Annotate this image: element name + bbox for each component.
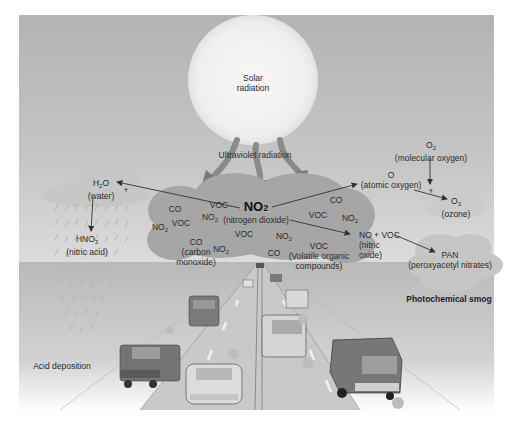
- no2-label: NO2: [213, 244, 229, 257]
- co-label: CO: [169, 204, 182, 214]
- molecular-oxygen-label: O2(molecular oxygen): [395, 140, 467, 163]
- uv-radiation-label: Ultraviolet radiation: [219, 150, 292, 160]
- pan-label: PAN(peroxyacetyl nitrates): [408, 250, 492, 270]
- smog-diagram: Solarradiation Ultraviolet radiation NO2…: [0, 0, 513, 429]
- nitric-oxide-voc-label: NO + VOC(nitricoxide): [359, 230, 400, 260]
- car-sedan-icon: [186, 364, 242, 404]
- photochemical-smog-label: Photochemical smog: [406, 294, 492, 304]
- voc-label: VOC(Volatile organiccompounds): [289, 241, 349, 271]
- voc-label: VOC: [172, 218, 190, 228]
- voc-label: VOC: [235, 229, 253, 239]
- solar-radiation-label: Solarradiation: [237, 73, 270, 93]
- water-label: H2O(water): [88, 178, 114, 201]
- ozone-label: O3(ozone): [442, 196, 471, 219]
- plus-sign: +: [429, 186, 434, 196]
- no2-label: NO2: [202, 212, 218, 225]
- co-label: CO: [268, 248, 281, 258]
- no2-center-label: NO2 (nitrogen dioxide): [223, 200, 289, 225]
- plus-sign: +: [124, 185, 129, 195]
- atomic-oxygen-label: O(atomic oxygen): [361, 170, 421, 190]
- voc-label: VOC: [309, 210, 327, 220]
- voc-label: VOC: [210, 200, 228, 210]
- carbon-monoxide-label: CO(carbonmonoxide): [176, 237, 216, 267]
- no2-label: NO2: [342, 213, 358, 226]
- no2-label: NO2: [152, 222, 168, 235]
- co-label: CO: [330, 195, 343, 205]
- car-van-icon: [330, 338, 402, 400]
- car-suv-left-icon: [189, 296, 219, 326]
- nitric-acid-label: HNO3(nitric acid): [66, 234, 108, 257]
- acid-deposition-label: Acid deposition: [33, 361, 91, 371]
